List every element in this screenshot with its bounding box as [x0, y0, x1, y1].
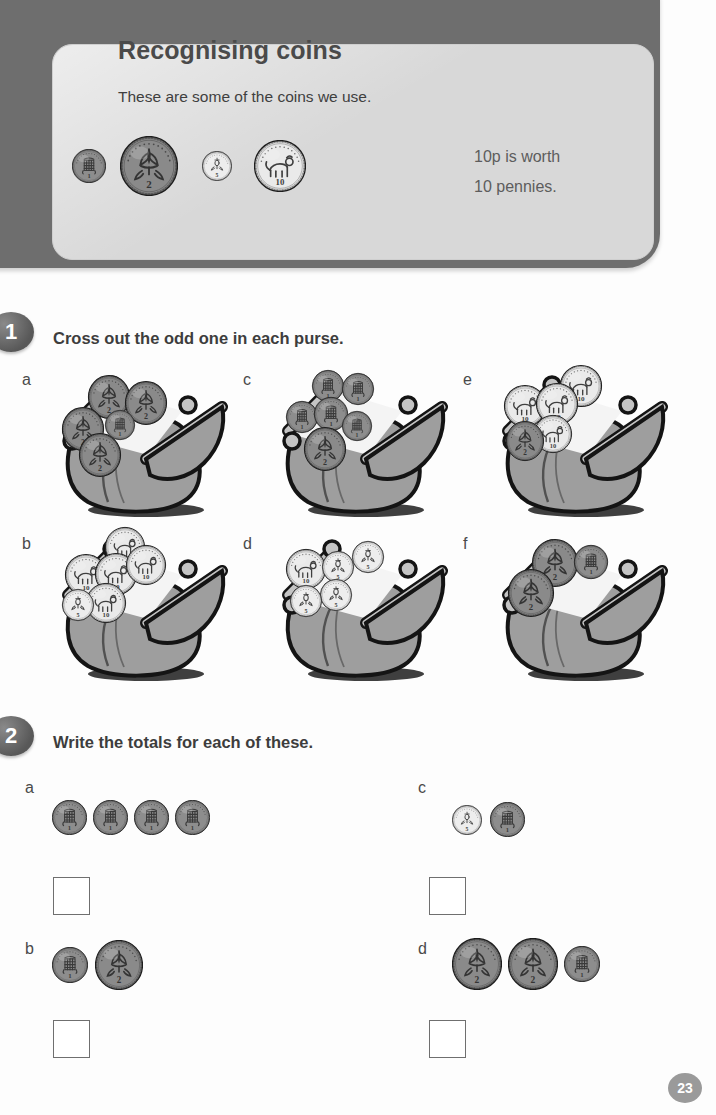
coin-1p-icon: 1 — [52, 947, 88, 983]
coin-1p-icon[interactable]: 1 — [342, 411, 372, 441]
item-label-2a: a — [25, 779, 34, 797]
purse-coins-1d: 10 5 5 5 5 — [270, 527, 455, 682]
svg-text:2: 2 — [98, 464, 102, 473]
coin-5p-icon: 5 — [452, 805, 482, 835]
coin-2p-icon[interactable]: 2 — [506, 421, 544, 461]
purse-coins-1e: 10 10 10 10 2 — [490, 363, 675, 518]
item-label-1f: f — [463, 535, 467, 553]
coin-5p-icon[interactable]: 5 — [320, 579, 352, 611]
purse-1b[interactable]: 10 10 10 10 10 5 — [50, 527, 235, 682]
question-2-badge: 2 — [0, 716, 34, 756]
coin-row-2b: 1 2 — [52, 940, 143, 990]
svg-text:5: 5 — [466, 825, 469, 831]
purse-coins-1a: 2 2 2 2 1 — [50, 363, 235, 518]
coin-1p-icon[interactable]: 1 — [574, 545, 608, 579]
svg-text:10: 10 — [550, 442, 556, 449]
coin-1p-icon: 1 — [175, 800, 210, 835]
svg-text:1: 1 — [589, 568, 592, 575]
svg-text:1: 1 — [356, 432, 359, 438]
svg-text:10: 10 — [143, 573, 150, 580]
coin-2p-icon: 2 — [452, 938, 502, 990]
page-number: 23 — [668, 1073, 702, 1103]
answer-box-2d[interactable] — [429, 1020, 466, 1058]
coin-5p-icon[interactable]: 5 — [352, 541, 384, 573]
coin-row-2d: 2 2 1 — [452, 938, 600, 990]
coin-10p-icon[interactable]: 10 — [126, 545, 166, 585]
svg-text:10: 10 — [103, 611, 110, 618]
svg-text:5: 5 — [216, 172, 219, 178]
item-label-1a: a — [22, 371, 31, 389]
coin-2p-icon: 2 — [95, 940, 143, 990]
item-label-2b: b — [25, 940, 34, 958]
item-label-1b: b — [22, 535, 31, 553]
item-label-2c: c — [418, 779, 426, 797]
coin-1p-icon: 1 — [564, 946, 600, 982]
coin-1p-icon: 1 — [72, 149, 106, 183]
svg-text:1: 1 — [87, 172, 90, 179]
item-label-1c: c — [243, 371, 251, 389]
coin-1p-icon: 1 — [490, 802, 525, 837]
coin-1p-icon[interactable]: 1 — [105, 410, 135, 440]
coin-1p-icon: 1 — [93, 800, 128, 835]
svg-text:1: 1 — [68, 824, 71, 831]
svg-text:2: 2 — [146, 177, 152, 189]
question-2-prompt: Write the totals for each of these. — [53, 733, 313, 752]
coin-1p-icon: 1 — [134, 800, 169, 835]
svg-text:2: 2 — [531, 974, 536, 985]
svg-text:1: 1 — [580, 971, 584, 978]
purse-coins-1c: 1 1 1 1 1 2 — [270, 363, 455, 518]
purse-1a[interactable]: 2 2 2 2 1 — [50, 363, 235, 518]
answer-box-2a[interactable] — [53, 877, 90, 915]
svg-text:10: 10 — [276, 177, 285, 187]
coin-2p-icon: 2 — [508, 938, 558, 990]
page-title: Recognising coins — [118, 36, 342, 65]
coin-5p-icon: 5 — [202, 151, 232, 181]
purse-1f[interactable]: 2 1 2 — [490, 527, 675, 682]
purse-coins-1f: 2 1 2 — [490, 527, 675, 682]
svg-text:2: 2 — [323, 458, 327, 467]
coin-row-2a: 1 1 1 1 — [52, 800, 210, 835]
item-label-1e: e — [463, 371, 472, 389]
svg-text:10: 10 — [303, 577, 310, 584]
purse-1e[interactable]: 10 10 10 10 2 — [490, 363, 675, 518]
svg-text:1: 1 — [109, 824, 112, 831]
svg-text:1: 1 — [68, 972, 72, 979]
header-note: 10p is worth 10 pennies. — [474, 142, 560, 202]
item-label-2d: d — [418, 940, 427, 958]
svg-text:1: 1 — [506, 826, 509, 833]
svg-text:1: 1 — [119, 431, 122, 437]
coin-1p-icon: 1 — [52, 800, 87, 835]
svg-text:1: 1 — [191, 824, 194, 831]
coin-5p-icon[interactable]: 5 — [62, 589, 94, 621]
purse-coins-1b: 10 10 10 10 10 5 — [50, 527, 235, 682]
coin-2p-icon: 2 — [120, 136, 178, 196]
svg-text:1: 1 — [150, 824, 153, 831]
purse-1d[interactable]: 10 5 5 5 5 — [270, 527, 455, 682]
question-1-badge: 1 — [0, 312, 34, 352]
svg-text:1: 1 — [356, 396, 359, 402]
coin-2p-icon[interactable]: 2 — [304, 427, 346, 471]
purse-1c[interactable]: 1 1 1 1 1 2 — [270, 363, 455, 518]
coin-2p-icon[interactable]: 2 — [508, 569, 554, 617]
svg-text:2: 2 — [529, 602, 534, 612]
svg-text:2: 2 — [523, 448, 527, 457]
svg-text:2: 2 — [475, 974, 480, 985]
coin-10p-icon: 10 — [254, 140, 306, 192]
page-subtitle: These are some of the coins we use. — [118, 88, 371, 106]
item-label-1d: d — [243, 535, 252, 553]
question-1-prompt: Cross out the odd one in each purse. — [53, 329, 344, 348]
coin-5p-icon[interactable]: 5 — [290, 585, 322, 617]
svg-text:5: 5 — [304, 608, 307, 614]
svg-text:5: 5 — [76, 612, 79, 618]
answer-box-2b[interactable] — [53, 1020, 90, 1058]
header-coin-row: 1 2 5 10 — [72, 136, 306, 196]
answer-box-2c[interactable] — [429, 877, 466, 915]
svg-text:2: 2 — [117, 975, 122, 985]
svg-text:10: 10 — [577, 395, 585, 403]
svg-text:2: 2 — [144, 412, 148, 421]
svg-text:5: 5 — [366, 564, 369, 570]
coin-row-2c: 5 1 — [452, 802, 525, 837]
svg-text:5: 5 — [334, 602, 337, 608]
